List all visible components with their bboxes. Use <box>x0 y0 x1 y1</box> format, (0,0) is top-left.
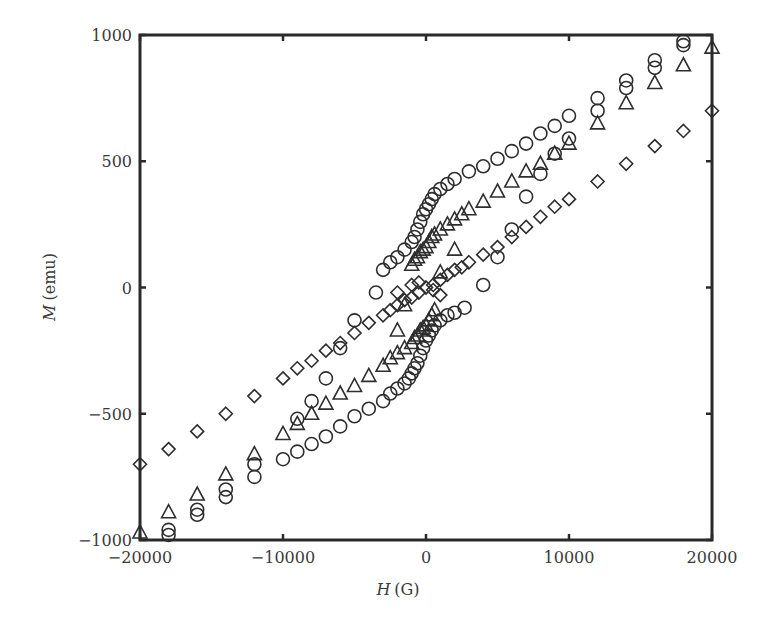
circle-marker <box>620 82 633 95</box>
diamond-marker <box>591 175 604 188</box>
triangle-marker <box>505 174 519 187</box>
circle-marker <box>548 119 561 132</box>
triangle-marker <box>333 386 347 399</box>
circle-marker <box>377 395 390 408</box>
circle-marker <box>411 223 424 236</box>
circle-marker <box>505 145 518 158</box>
circle-marker <box>219 491 232 504</box>
y-tick-label: −500 <box>88 405 132 424</box>
triangle-marker <box>491 184 505 197</box>
x-tick-label: 10000 <box>544 548 595 567</box>
diamond-marker <box>305 354 318 367</box>
triangle-marker <box>276 426 290 439</box>
diamond-marker <box>191 425 204 438</box>
circle-marker <box>319 372 332 385</box>
circle-marker <box>458 301 471 314</box>
circle-marker <box>219 483 232 496</box>
axis-ticks <box>140 35 712 540</box>
circle-marker <box>334 420 347 433</box>
diamond-marker <box>420 281 433 294</box>
y-tick-label: 1000 <box>91 26 132 45</box>
circle-marker <box>369 286 382 299</box>
diamond-marker <box>291 362 304 375</box>
circle-marker <box>620 74 633 87</box>
circle-marker <box>362 402 375 415</box>
diamond-marker <box>434 273 447 286</box>
triangle-marker <box>376 358 390 371</box>
circle-marker <box>477 160 490 173</box>
triangle-marker <box>619 96 633 109</box>
triangle-marker <box>448 242 462 255</box>
diamond-marker <box>219 407 232 420</box>
diamond-marker <box>505 231 518 244</box>
diamond-marker <box>455 261 468 274</box>
diamond-marker <box>648 140 661 153</box>
circle-marker <box>348 410 361 423</box>
triangle-marker <box>648 75 662 88</box>
diamond-marker <box>620 157 633 170</box>
x-tick-labels: −20000−1000001000020000 <box>108 548 738 567</box>
diamond-marker <box>348 326 361 339</box>
triangle-marker <box>390 323 404 336</box>
diamond-marker <box>427 284 440 297</box>
diamond-marker <box>434 289 447 302</box>
diamond-marker <box>427 278 440 291</box>
diamond-marker <box>520 220 533 233</box>
diamond-marker <box>384 304 397 317</box>
circle-marker <box>520 137 533 150</box>
triangle-marker <box>476 194 490 207</box>
y-tick-label: −1000 <box>78 531 132 550</box>
circle-marker <box>648 54 661 67</box>
circle-marker <box>448 306 461 319</box>
x-tick-label: −10000 <box>251 548 315 567</box>
triangle-marker <box>390 346 404 359</box>
diamond-marker <box>448 263 461 276</box>
diamond-marker <box>477 248 490 261</box>
diamond-marker <box>534 210 547 223</box>
triangle-marker <box>398 341 412 354</box>
circle-marker <box>591 92 604 105</box>
circle-marker <box>414 349 427 362</box>
circle-marker <box>491 152 504 165</box>
triangle-marker <box>440 217 454 230</box>
data-markers <box>133 35 719 542</box>
circle-marker <box>648 61 661 74</box>
triangle-marker <box>348 378 362 391</box>
diamond-marker <box>563 193 576 206</box>
diamond-marker <box>548 200 561 213</box>
diamond-marker <box>377 309 390 322</box>
circle-marker <box>248 470 261 483</box>
y-axis-label: M(emu) <box>40 253 59 322</box>
x-tick-label: −20000 <box>108 548 172 567</box>
diamond-marker <box>319 344 332 357</box>
triangle-marker <box>519 164 533 177</box>
circle-marker <box>348 314 361 327</box>
circle-marker <box>319 430 332 443</box>
circle-marker <box>477 278 490 291</box>
diamond-marker <box>677 124 690 137</box>
triangle-marker <box>190 487 204 500</box>
plot-frame <box>140 35 712 540</box>
circle-marker <box>277 453 290 466</box>
triangle-marker <box>319 396 333 409</box>
circle-marker <box>398 243 411 256</box>
x-axis-label: H(G) <box>375 580 419 599</box>
circle-marker <box>334 342 347 355</box>
triangle-marker <box>448 212 462 225</box>
circle-marker <box>563 109 576 122</box>
y-tick-label: 500 <box>101 152 132 171</box>
diamond-marker <box>462 256 475 269</box>
diamond-marker <box>362 316 375 329</box>
y-tick-labels: −1000−50005001000 <box>78 26 132 550</box>
circle-marker <box>291 445 304 458</box>
x-tick-label: 20000 <box>687 548 738 567</box>
diamond-marker <box>277 372 290 385</box>
x-tick-label: 0 <box>421 548 431 567</box>
triangle-marker <box>362 368 376 381</box>
circle-marker <box>305 438 318 451</box>
circle-marker <box>377 263 390 276</box>
triangle-marker <box>455 207 469 220</box>
triangle-marker <box>462 202 476 215</box>
circle-marker <box>414 215 427 228</box>
diamond-marker <box>248 390 261 403</box>
